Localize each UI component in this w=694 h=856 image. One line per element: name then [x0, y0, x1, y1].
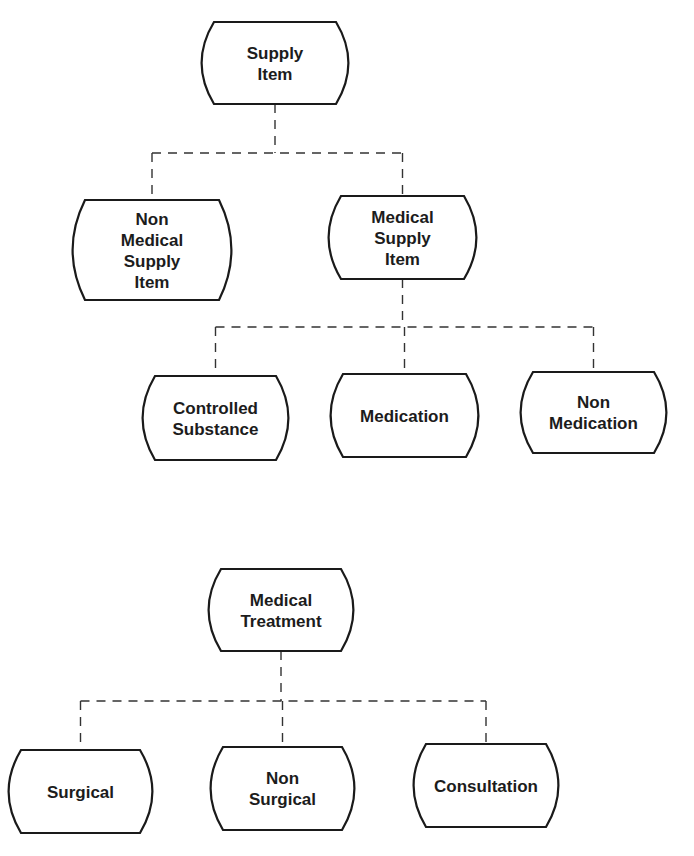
node-label-line: Medical: [371, 208, 433, 227]
node-supply-item: SupplyItem: [202, 22, 349, 104]
node-label-line: Non: [266, 769, 299, 788]
node-non-medical-supply-item: NonMedicalSupplyItem: [73, 200, 232, 300]
diagram-canvas: SupplyItemNonMedicalSupplyItemMedicalSup…: [0, 0, 694, 856]
node-medical-treatment: MedicalTreatment: [209, 569, 354, 651]
node-surgical: Surgical: [9, 750, 153, 833]
node-label-line: Medical: [121, 231, 183, 250]
node-shape: [521, 372, 667, 453]
node-label-line: Supply: [124, 252, 181, 271]
node-label-line: Item: [135, 273, 170, 292]
node-medication: Medication: [331, 374, 479, 457]
node-shape: [209, 569, 354, 651]
node-label-line: Item: [258, 65, 293, 84]
node-label-line: Substance: [173, 420, 259, 439]
node-shape: [211, 747, 355, 830]
node-label-line: Surgical: [249, 790, 316, 809]
node-non-medication: NonMedication: [521, 372, 667, 453]
clipped-caption: [0, 851, 694, 856]
node-label-line: Medication: [549, 414, 638, 433]
nodes: SupplyItemNonMedicalSupplyItemMedicalSup…: [9, 22, 667, 833]
node-label-line: Non: [135, 210, 168, 229]
node-label-line: Non: [577, 393, 610, 412]
node-label-line: Surgical: [47, 783, 114, 802]
node-label-line: Medication: [360, 407, 449, 426]
node-label-line: Treatment: [240, 612, 322, 631]
node-non-surgical: NonSurgical: [211, 747, 355, 830]
node-consultation: Consultation: [414, 744, 559, 827]
node-shape: [202, 22, 349, 104]
node-label-line: Supply: [247, 44, 304, 63]
node-label-line: Consultation: [434, 777, 538, 796]
node-label-line: Item: [385, 250, 420, 269]
node-label-line: Medical: [250, 591, 312, 610]
node-label-line: Controlled: [173, 399, 258, 418]
node-medical-supply-item: MedicalSupplyItem: [329, 196, 477, 279]
node-controlled-substance: ControlledSubstance: [143, 376, 289, 460]
node-label-line: Supply: [374, 229, 431, 248]
node-shape: [143, 376, 289, 460]
